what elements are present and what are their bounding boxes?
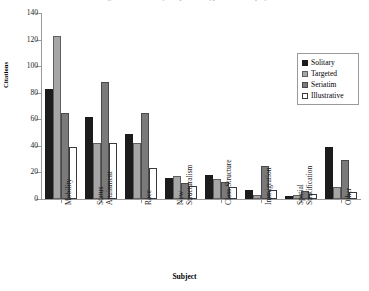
bar: [205, 175, 213, 199]
legend-label: Targeted: [311, 69, 337, 78]
x-axis-tick-label: Status Attainment: [97, 171, 114, 205]
bar-group: [125, 13, 157, 199]
legend-item: Illustrative: [302, 90, 355, 101]
x-axis-tick-mark: [61, 199, 62, 203]
y-axis-tick-label: 140: [27, 8, 38, 17]
y-axis-tick-label: 100: [27, 61, 38, 70]
y-axis-tick-label: 0: [34, 194, 38, 203]
x-axis-tick-label: Class Structure: [225, 159, 234, 205]
legend-swatch-icon: [302, 93, 308, 99]
legend-swatch-icon: [302, 71, 308, 77]
x-axis-title: Subject: [0, 272, 369, 281]
bar: [213, 179, 221, 199]
bar: [141, 113, 149, 199]
x-axis-tick-label: Immigration: [265, 168, 274, 206]
legend-item: Targeted: [302, 68, 355, 79]
legend-item: Seriatim: [302, 79, 355, 90]
bar: [45, 89, 53, 199]
y-axis-tick-label: 60: [31, 114, 39, 123]
x-axis-tick-label: Race: [145, 190, 154, 205]
y-axis-title: Citations: [2, 62, 9, 88]
x-axis-tick-label: Mobility: [65, 179, 74, 205]
legend-item: Solitary: [302, 57, 355, 68]
x-axis-tick-mark: [341, 199, 342, 203]
y-axis-tick-label: 120: [27, 35, 38, 44]
legend-label: Seriatim: [311, 80, 336, 89]
bar: [165, 178, 173, 199]
bar: [285, 196, 293, 199]
y-axis-tick-label: 40: [31, 141, 39, 150]
bar-group: [325, 13, 357, 199]
y-axis-tick-label: 80: [31, 88, 39, 97]
x-axis-tick-mark: [221, 199, 222, 203]
x-axis-tick-label: New Structuralism: [177, 165, 194, 205]
bar: [133, 143, 141, 199]
bar-group: [45, 13, 77, 199]
bar-chart: Figure 1. Citations by Subject and Type …: [0, 0, 369, 291]
legend-label: Illustrative: [311, 91, 344, 100]
x-axis-tick-mark: [261, 199, 262, 203]
x-axis-tick-mark: [141, 199, 142, 203]
bar: [85, 117, 93, 199]
x-axis-tick-label: Other: [345, 188, 354, 205]
bar: [325, 147, 333, 199]
bar: [53, 36, 61, 199]
legend-swatch-icon: [302, 60, 308, 66]
bar: [333, 187, 341, 199]
chart-title: Figure 1. Citations by Subject and Type …: [0, 0, 369, 1]
y-axis-tick-label: 20: [31, 167, 39, 176]
chart-legend: SolitaryTargetedSeriatimIllustrative: [297, 53, 359, 105]
bar: [125, 134, 133, 199]
bar: [245, 190, 253, 199]
x-axis-tick-label: Spatial Stratification: [297, 166, 314, 205]
legend-label: Solitary: [311, 58, 335, 67]
bar: [253, 195, 261, 199]
legend-swatch-icon: [302, 82, 308, 88]
